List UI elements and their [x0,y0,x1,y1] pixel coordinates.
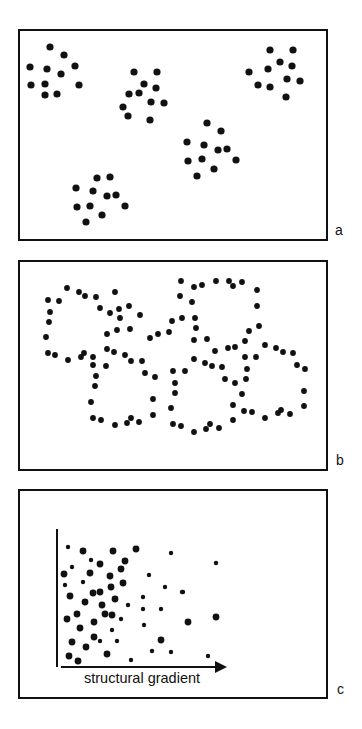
data-point [103,192,110,199]
data-point [90,354,96,360]
data-point [124,420,130,426]
data-point [254,287,260,293]
data-point [203,426,209,432]
panel-c-gradient [19,490,327,698]
data-point [191,337,197,343]
data-point [213,614,220,621]
data-point [169,318,175,324]
data-point [191,429,197,435]
data-point [170,368,176,374]
data-point [262,415,268,421]
data-point [146,116,153,123]
data-point [219,364,225,370]
data-point [119,103,126,110]
data-point [193,172,200,179]
data-point [90,415,96,421]
panel-a-clumped [19,30,327,240]
data-point [276,58,283,65]
data-point [204,336,210,342]
data-point [244,366,250,372]
data-point [150,396,156,402]
data-point [112,191,119,198]
data-point [166,329,172,335]
data-point [120,580,127,587]
data-point [82,599,89,606]
data-point [135,89,142,96]
data-point [115,639,119,643]
data-point [168,405,174,411]
data-point [203,119,210,126]
data-point [93,373,99,379]
data-point [178,423,184,429]
data-point [202,360,208,366]
data-point [97,561,104,568]
data-point [45,350,51,356]
data-point [191,356,197,362]
data-point [60,51,67,58]
panel-label-b: b [336,452,344,468]
data-point [214,561,218,565]
data-point [124,112,131,119]
data-point [112,289,118,295]
data-point [256,323,262,329]
data-point [126,303,132,309]
data-point [242,354,248,360]
data-point [223,145,230,152]
data-point [207,421,213,427]
data-point [222,376,228,382]
data-point [107,310,113,316]
data-point [104,331,110,337]
data-point [139,358,145,364]
data-point [142,370,148,376]
data-point [66,545,70,549]
data-point [109,612,116,619]
data-point [26,63,33,70]
data-point [230,283,236,289]
data-point [46,43,53,50]
data-point [172,380,178,386]
data-point [110,628,114,632]
data-point [239,279,245,285]
data-point [118,566,125,573]
data-point [163,585,167,589]
data-point [192,315,198,321]
data-point [301,403,307,409]
data-point [147,573,151,577]
data-point [122,558,129,565]
data-point [45,297,51,303]
data-point [81,580,85,584]
data-point [206,654,210,658]
data-point [86,202,93,209]
data-point [53,90,60,97]
data-point [112,596,119,603]
data-point [264,65,271,72]
data-point [125,90,132,97]
data-point [88,399,94,405]
data-point [136,419,142,425]
data-point [73,203,80,210]
data-point [87,570,94,577]
data-point [64,285,70,291]
data-point [102,611,109,618]
data-point [57,70,64,77]
data-point [249,409,255,415]
data-point [210,165,217,172]
data-point [66,653,73,660]
data-point [254,81,261,88]
data-point [225,345,231,351]
data-point [116,306,122,312]
data-point [93,174,100,181]
data-point [63,583,67,587]
data-point [245,68,252,75]
data-point [98,639,102,643]
data-point [128,415,134,421]
data-point [241,408,247,414]
data-point [170,421,176,427]
data-point [122,352,128,358]
data-point [70,565,74,569]
data-point [133,546,140,553]
data-point [111,349,117,355]
data-point [273,345,279,351]
data-point [82,293,88,299]
x-axis-label: structural gradient [84,670,200,686]
